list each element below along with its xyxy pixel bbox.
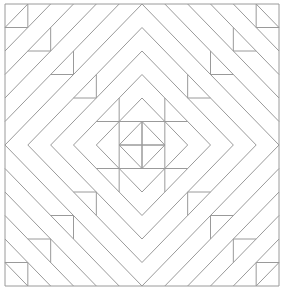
pattern-line: [119, 145, 142, 169]
pattern-line: [28, 28, 142, 146]
pattern-line: [5, 4, 119, 122]
pattern-line: [142, 28, 256, 146]
pattern-line: [165, 169, 279, 287]
pattern-lines: [5, 4, 279, 286]
pattern-line: [256, 4, 279, 28]
pattern-line: [142, 145, 256, 263]
pattern-line: [5, 4, 74, 75]
pattern-line: [142, 145, 165, 169]
pattern-line: [5, 263, 28, 287]
pattern-line: [74, 75, 143, 146]
pattern-line: [5, 169, 119, 287]
pattern-line: [142, 122, 165, 146]
pattern-line: [165, 4, 279, 122]
pattern-line: [256, 263, 279, 287]
quilt-pattern: [0, 0, 286, 301]
pattern-line: [119, 122, 142, 146]
pattern-line: [5, 216, 74, 287]
pattern-line: [211, 216, 280, 287]
pattern-line: [5, 4, 28, 28]
pattern-line: [142, 75, 211, 146]
pattern-line: [74, 145, 143, 216]
pattern-line: [211, 4, 280, 75]
pattern-line: [142, 145, 211, 216]
pattern-line: [28, 145, 142, 263]
